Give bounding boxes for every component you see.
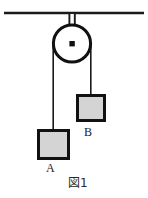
block-b-body <box>78 96 105 121</box>
pulley-figure: A B 図1 <box>0 0 148 198</box>
block-a-label: A <box>46 162 55 174</box>
block-b-label: B <box>84 126 92 138</box>
pulley-axle-hub <box>69 41 74 46</box>
pulley-diagram-canvas <box>0 0 148 198</box>
figure-caption: 図1 <box>68 177 88 189</box>
block-a-body <box>39 131 69 159</box>
